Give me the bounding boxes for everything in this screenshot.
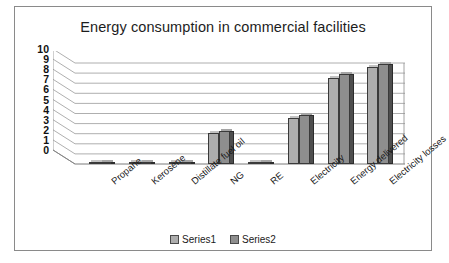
bar-ng-series2[interactable] (219, 131, 230, 164)
bar-front-face (100, 162, 111, 165)
bar-electricity-series2[interactable] (299, 115, 310, 164)
x-category-label: RE (268, 170, 285, 187)
bars-layer (53, 51, 405, 166)
bar-electricity-losses-series1[interactable] (367, 67, 378, 164)
bar-electricity-losses-series2[interactable] (378, 64, 389, 164)
bar-front-face (208, 133, 219, 164)
bar-kerosene-series1[interactable] (129, 162, 140, 165)
bar-front-face (219, 131, 230, 164)
chart-legend: Series1Series2 (15, 234, 431, 245)
legend-swatch-icon (230, 235, 239, 244)
legend-item[interactable]: Series2 (230, 234, 276, 245)
bar-front-face (180, 162, 191, 165)
y-tick-label: 5 (23, 95, 49, 105)
bar-ng-series1[interactable] (208, 133, 219, 164)
bar-front-face (367, 67, 378, 164)
bar-front-face (248, 162, 259, 165)
bar-energy-delivered-series2[interactable] (339, 74, 350, 164)
bar-side-face (310, 115, 314, 164)
bar-electricity-series1[interactable] (288, 118, 299, 164)
bar-distillate-fuel-oil-series1[interactable] (169, 162, 180, 165)
bar-front-face (288, 118, 299, 164)
bar-propane-series1[interactable] (89, 162, 100, 165)
bar-side-face (270, 162, 274, 165)
bar-front-face (259, 162, 270, 165)
x-category-label: NG (228, 169, 246, 187)
y-axis-tick-labels: 109876543210 (23, 45, 49, 165)
bar-side-face (230, 131, 234, 164)
bar-front-face (328, 78, 339, 164)
bar-distillate-fuel-oil-series2[interactable] (180, 162, 191, 165)
bar-front-face (140, 162, 151, 165)
bar-side-face (389, 64, 393, 164)
legend-label: Series1 (182, 234, 216, 245)
bar-energy-delivered-series1[interactable] (328, 78, 339, 164)
plot-area (53, 51, 405, 166)
y-tick-label: 0 (23, 145, 49, 155)
chart-title: Energy consumption in commercial facilit… (15, 19, 431, 35)
chart-frame: Energy consumption in commercial facilit… (14, 6, 432, 251)
y-tick-label: 6 (23, 84, 49, 94)
bar-kerosene-series2[interactable] (140, 162, 151, 165)
legend-swatch-icon (170, 235, 179, 244)
bar-propane-series2[interactable] (100, 162, 111, 165)
bar-front-face (339, 74, 350, 164)
bar-side-face (350, 74, 354, 164)
bar-side-face (111, 162, 115, 165)
legend-item[interactable]: Series1 (170, 234, 216, 245)
bar-side-face (191, 162, 195, 165)
legend-label: Series2 (242, 234, 276, 245)
bar-front-face (89, 162, 100, 165)
bar-front-face (169, 162, 180, 165)
bar-front-face (129, 162, 140, 165)
bar-front-face (299, 115, 310, 164)
bar-re-series1[interactable] (248, 162, 259, 165)
bar-side-face (151, 162, 155, 165)
bar-front-face (378, 64, 389, 164)
bar-re-series2[interactable] (259, 162, 270, 165)
